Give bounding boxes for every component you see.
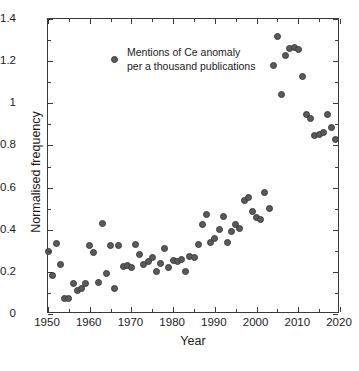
data-point — [211, 235, 218, 242]
axis-tick — [236, 309, 237, 312]
data-point — [270, 62, 277, 69]
x-tick-label: 1990 — [201, 316, 227, 328]
axis-tick — [277, 309, 278, 312]
data-point — [178, 256, 185, 263]
legend-label: Mentions of Ce anomaly per a thousand pu… — [127, 46, 255, 74]
axis-tick — [340, 19, 341, 24]
axis-tick — [236, 19, 237, 22]
data-point — [274, 33, 281, 40]
axis-tick — [48, 145, 53, 146]
axis-tick — [48, 251, 51, 252]
axis-tick — [152, 19, 153, 22]
axis-tick — [257, 307, 258, 312]
axis-tick — [69, 309, 70, 312]
data-point — [128, 264, 135, 271]
axis-tick — [131, 307, 132, 312]
data-point — [99, 220, 106, 227]
axis-tick — [277, 19, 278, 22]
data-point — [157, 260, 164, 267]
axis-tick — [48, 307, 49, 312]
axis-tick — [333, 103, 338, 104]
axis-tick — [48, 272, 53, 273]
axis-tick — [298, 307, 299, 312]
axis-tick — [48, 167, 51, 168]
axis-tick — [90, 19, 91, 24]
y-tick-label: 0.8 — [0, 138, 16, 150]
data-point — [53, 240, 60, 247]
data-point — [332, 136, 339, 143]
data-point — [57, 261, 64, 268]
data-point — [132, 241, 139, 248]
data-point — [257, 216, 264, 223]
data-point — [278, 91, 285, 98]
data-point — [236, 225, 243, 232]
data-point — [307, 115, 314, 122]
y-tick-label: 1.2 — [0, 54, 16, 66]
axis-tick — [335, 124, 338, 125]
axis-tick — [173, 307, 174, 312]
axis-tick — [48, 188, 53, 189]
axis-tick — [333, 188, 338, 189]
data-point — [45, 248, 52, 255]
x-tick-label: 2000 — [243, 316, 269, 328]
axis-tick — [90, 307, 91, 312]
data-point — [195, 241, 202, 248]
data-point — [161, 245, 168, 252]
data-point — [295, 46, 302, 53]
axis-tick — [333, 314, 338, 315]
axis-tick — [48, 230, 53, 231]
axis-tick — [152, 309, 153, 312]
data-point — [182, 268, 189, 275]
axis-tick — [333, 19, 338, 20]
axis-tick — [48, 82, 51, 83]
y-axis-title: Normalised frequency — [29, 62, 43, 282]
data-point — [228, 228, 235, 235]
x-tick-label: 2010 — [284, 316, 310, 328]
axis-tick — [48, 293, 51, 294]
axis-tick — [48, 19, 53, 20]
legend-label-line-1: Mentions of Ce anomaly — [127, 46, 240, 58]
data-point — [216, 226, 223, 233]
axis-tick — [319, 19, 320, 22]
data-point — [245, 194, 252, 201]
legend: Mentions of Ce anomaly per a thousand pu… — [111, 46, 255, 74]
axis-tick — [48, 209, 51, 210]
axis-tick — [48, 103, 53, 104]
axis-tick — [335, 167, 338, 168]
legend-marker-icon — [111, 56, 118, 63]
scatter-chart-figure: Mentions of Ce anomaly per a thousand pu… — [0, 0, 359, 371]
data-point — [220, 213, 227, 220]
data-point — [320, 129, 327, 136]
data-point — [153, 268, 160, 275]
axis-tick — [333, 61, 338, 62]
axis-tick — [131, 19, 132, 24]
y-tick-label: 1 — [10, 96, 16, 108]
legend-label-line-2: per a thousand publications — [127, 60, 255, 72]
data-point — [65, 295, 72, 302]
axis-tick — [335, 293, 338, 294]
data-point — [299, 73, 306, 80]
data-point — [82, 280, 89, 287]
data-point — [136, 251, 143, 258]
data-point — [90, 249, 97, 256]
axis-tick — [333, 230, 338, 231]
axis-tick — [335, 82, 338, 83]
data-point — [224, 239, 231, 246]
axis-tick — [333, 272, 338, 273]
axis-tick — [257, 19, 258, 24]
axis-tick — [194, 309, 195, 312]
data-point — [203, 211, 210, 218]
y-tick-label: 0.4 — [0, 223, 16, 235]
data-point — [95, 279, 102, 286]
axis-tick — [48, 61, 53, 62]
x-axis-title: Year — [47, 334, 339, 348]
axis-tick — [215, 19, 216, 24]
axis-tick — [215, 307, 216, 312]
data-point — [324, 111, 331, 118]
axis-tick — [298, 19, 299, 24]
data-point — [107, 242, 114, 249]
y-tick-label: 1.4 — [0, 12, 16, 24]
data-point — [111, 285, 118, 292]
axis-tick — [333, 145, 338, 146]
x-tick-label: 1970 — [118, 316, 144, 328]
